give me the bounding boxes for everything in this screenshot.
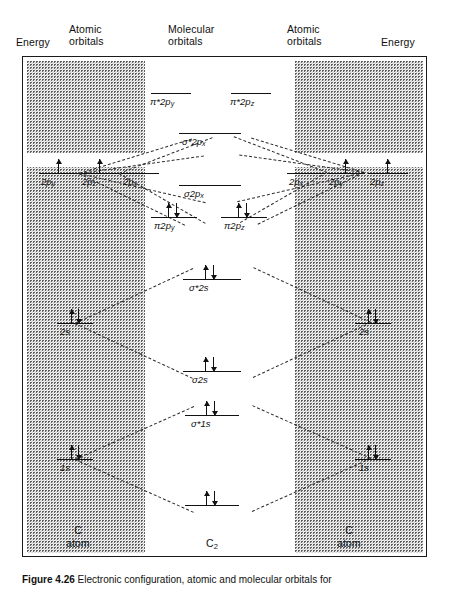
label-left-2s: 2s (60, 327, 70, 337)
electron-pi-2py-up (166, 203, 171, 218)
electron-sigma-star-2s-up (203, 265, 208, 280)
electron-right-1s-down (373, 445, 378, 460)
electron-right-2py-up (343, 159, 348, 174)
electron-right-2pz-up (385, 159, 390, 174)
level-pi-star-2py (151, 93, 191, 94)
electron-sigma-star-1s-up (204, 401, 209, 416)
electron-left-1s-down (76, 445, 81, 460)
level-left-2px (121, 173, 159, 174)
electron-left-2pz-up (97, 159, 102, 174)
electron-sigma-2s-down (211, 357, 216, 372)
label-right-2px: 2px (289, 177, 303, 189)
electron-sigma-star-2s-down (211, 265, 216, 280)
species-center-symbol: C (206, 537, 214, 549)
electron-sigma-1s-up (204, 491, 209, 506)
electron-right-2s-down (373, 309, 378, 324)
atomic-orbitals-label-left: Atomic orbitals (69, 23, 104, 47)
electron-left-1s-up (69, 445, 74, 460)
level-sigma-2px (179, 185, 241, 186)
electron-left-2s-up (69, 309, 74, 324)
species-center: C2 molecule (175, 524, 249, 557)
label-sigma-star-2s: σ*2s (189, 283, 208, 293)
electron-left-2s-down (76, 309, 81, 324)
label-pi-2pz: π2pz (224, 221, 244, 233)
label-left-2py: 2py (41, 177, 55, 189)
electron-right-2s-up (366, 309, 371, 324)
label-right-2py: 2py (329, 177, 343, 189)
energy-label-left: Energy (16, 36, 50, 48)
label-left-2pz: 2pz (82, 177, 96, 189)
electron-pi-2pz-up (236, 203, 241, 218)
figure-caption-number: Figure 4.26 (22, 574, 75, 585)
label-pi-star-2py: π*2py (150, 97, 174, 109)
label-sigma-2px: σ2px (184, 189, 204, 201)
electron-pi-2py-down (174, 203, 179, 218)
species-right: C atom (319, 524, 379, 549)
label-sigma-star-1s: σ*1s (191, 419, 210, 429)
level-pi-star-2pz (231, 93, 271, 94)
energy-label-right: Energy (381, 36, 415, 48)
electron-sigma-1s-down (212, 491, 217, 506)
stipple-column-right (295, 61, 423, 553)
level-sigma-star-2px (179, 133, 241, 134)
figure-caption: Figure 4.26 Electronic configuration, at… (22, 574, 434, 596)
figure-canvas: Energy Atomic orbitals Molecular orbital… (0, 0, 449, 597)
electron-pi-2pz-down (244, 203, 249, 218)
label-right-2pz: 2pz (370, 177, 384, 189)
label-left-1s: 1s (60, 463, 70, 473)
mo-diagram-frame: 2py 2pz 2px 2s (22, 56, 427, 557)
species-left: C atom (43, 524, 113, 549)
electron-sigma-star-1s-down (212, 401, 217, 416)
figure-caption-text: Electronic configuration, atomic and mol… (78, 574, 332, 585)
label-left-2px: 2px (123, 177, 137, 189)
electron-right-1s-up (366, 445, 371, 460)
label-sigma-2s: σ2s (192, 375, 208, 385)
label-pi-star-2pz: π*2pz (230, 97, 254, 109)
stipple-gap-left-2p (27, 153, 145, 167)
species-center-sub: 2 (214, 542, 218, 551)
molecular-orbitals-label: Molecular orbitals (168, 23, 214, 47)
label-pi-2py: π2py (154, 221, 174, 233)
stipple-column-left (27, 61, 145, 553)
atomic-orbitals-label-right: Atomic orbitals (287, 23, 322, 47)
label-sigma-star-2px: σ*2px (182, 137, 206, 149)
label-right-2s: 2s (359, 327, 369, 337)
electron-left-2py-up (56, 159, 61, 174)
electron-sigma-2s-up (203, 357, 208, 372)
label-right-1s: 1s (359, 463, 369, 473)
level-right-2px (287, 173, 325, 174)
